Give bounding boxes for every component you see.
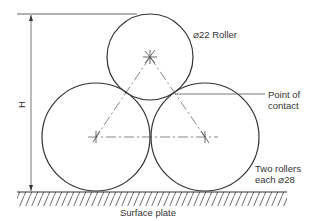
dimension-h-label: H — [16, 101, 27, 108]
point-of-contact-label: Point of contact — [268, 89, 300, 111]
two-rollers-line2: each ⌀28 — [255, 174, 301, 185]
two-rollers-line1: Two rollers — [255, 163, 301, 174]
surface-plate-label: Surface plate — [120, 207, 176, 218]
two-rollers-label: Two rollers each ⌀28 — [255, 163, 301, 185]
top-roller-label: ⌀22 Roller — [193, 29, 237, 40]
surface-plate — [17, 192, 287, 206]
point-of-contact-line2: contact — [268, 100, 300, 111]
center-lines — [88, 57, 218, 137]
point-of-contact-line1: Point of — [268, 89, 300, 100]
dimension-h — [29, 15, 33, 191]
